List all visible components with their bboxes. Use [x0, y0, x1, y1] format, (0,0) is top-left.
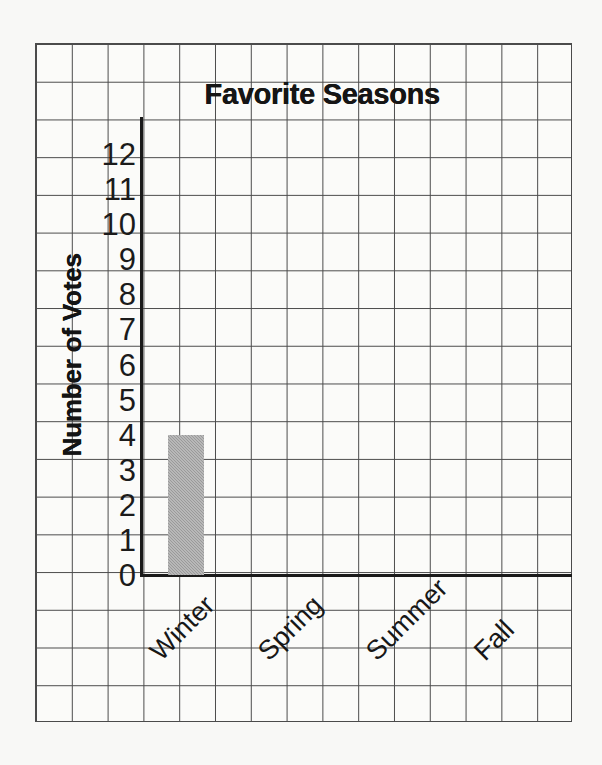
y-tick-label: 9: [90, 244, 136, 275]
y-tick-label: 11: [90, 174, 136, 205]
y-axis-tick-labels: 1211109876543210: [86, 0, 136, 765]
y-tick-label: 2: [90, 489, 136, 520]
y-tick-label: 10: [90, 209, 136, 240]
y-tick-label: 6: [90, 349, 136, 380]
y-tick-label: 5: [90, 384, 136, 415]
x-axis-line: [140, 574, 572, 577]
bar-winter: [168, 435, 204, 575]
y-axis-label: Number of Votes: [57, 253, 88, 456]
y-tick-label: 0: [90, 560, 136, 591]
worksheet-page: Favorite Seasons Number of Votes 1211109…: [0, 0, 602, 765]
y-tick-label: 4: [90, 419, 136, 450]
y-tick-label: 7: [90, 314, 136, 345]
y-axis-line: [140, 117, 143, 576]
y-tick-label: 3: [90, 454, 136, 485]
y-tick-label: 1: [90, 524, 136, 555]
y-tick-label: 8: [90, 279, 136, 310]
y-tick-label: 12: [90, 139, 136, 170]
